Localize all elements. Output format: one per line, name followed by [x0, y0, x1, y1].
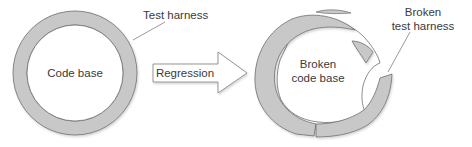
broken-harness-label-line1: Broken: [405, 6, 441, 18]
regression-label: Regression: [156, 67, 214, 79]
test-harness-leader-line: [133, 22, 165, 40]
regression-arrow: Regression: [153, 52, 247, 93]
code-base-label: Code base: [47, 67, 103, 79]
broken-harness-leader-line: [388, 32, 410, 72]
broken-harness-label-line2: test harness: [392, 20, 455, 32]
diagram-canvas: Code base Test harness Regression Broken…: [0, 0, 472, 147]
broken-code-base-label-line2: code base: [291, 72, 344, 84]
broken-code-base-label-line1: Broken: [300, 58, 336, 70]
broken-harness-sliver: [316, 10, 351, 14]
broken-system: Broken code base Broken test harness: [255, 6, 455, 137]
test-harness-label: Test harness: [143, 9, 208, 21]
